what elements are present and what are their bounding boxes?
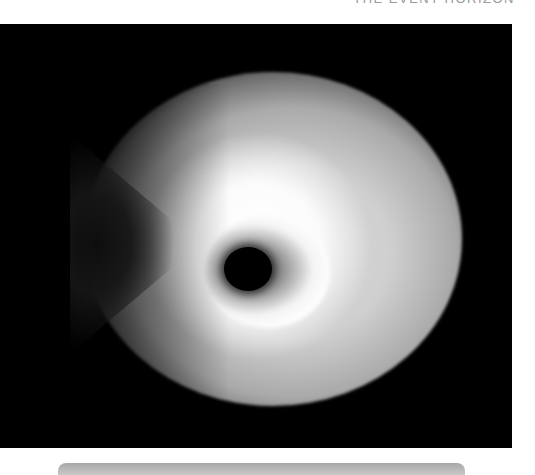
bottom-bar	[58, 463, 465, 475]
event-horizon-shadow	[224, 247, 272, 291]
image-caption: THE EVENT HORIZON	[353, 0, 515, 6]
black-hole-image	[0, 24, 512, 448]
